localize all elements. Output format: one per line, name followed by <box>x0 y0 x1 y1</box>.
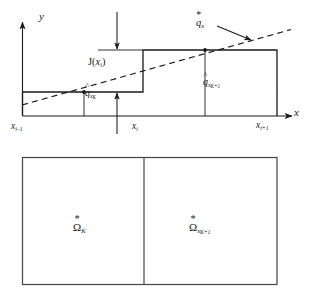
jump-paren-close: ) <box>102 56 106 67</box>
x-axis-label: x <box>294 107 299 118</box>
diagram-svg <box>0 0 315 293</box>
q-hat-left-caret: ^ <box>86 83 90 91</box>
q-hat-right-caret: ^ <box>204 72 208 80</box>
q-star-pointer-arrow <box>217 26 251 40</box>
q-hat-right-base-wrap: ^q <box>203 77 208 87</box>
bottom-panel-control-volumes <box>23 158 278 285</box>
omega-right-label: *ΩxK+1 <box>189 222 210 236</box>
q-hat-right-sub2: K+1 <box>211 83 221 89</box>
q-star-asterisk: * <box>196 10 201 20</box>
top-panel-graph <box>22 12 292 134</box>
q-hat-right-label: ^qxK+1 <box>203 77 220 89</box>
omega-left-asterisk: * <box>74 214 79 224</box>
exact-solution-dashed-line <box>22 30 291 106</box>
x-tick-label-i-plus-1: xi+1 <box>256 121 269 132</box>
x-tick-sub-3: i+1 <box>260 125 269 131</box>
q-hat-left-label: ^qxK <box>85 88 96 100</box>
marker-q-hat-x-K1 <box>203 48 207 52</box>
jump-label: J(xi) <box>88 57 106 69</box>
omega-right-base-wrap: *Ω <box>189 222 197 233</box>
q-hat-left-base-wrap: ^q <box>85 88 90 98</box>
figure-container: y x J(xi) *qx ^qxK ^qxK+1 xi–1 xi xi+1 *… <box>0 0 315 293</box>
q-hat-left-sub2: K <box>93 94 96 100</box>
y-axis-label: y <box>39 11 44 22</box>
omega-left-base-wrap: *Ω <box>73 222 81 233</box>
x-tick-label-i: xi <box>132 122 138 133</box>
q-star-label: *qx <box>196 18 204 30</box>
x-tick-label-i-minus-1: xi–1 <box>11 122 23 133</box>
step-function-reconstruction <box>23 50 278 116</box>
omega-left-label: *ΩK <box>73 222 86 235</box>
omega-right-sub2: K+1 <box>200 229 211 235</box>
q-star-sub: x <box>201 22 204 29</box>
x-tick-sub-2: i <box>136 126 138 132</box>
q-star-base-wrap: *q <box>196 18 201 29</box>
control-volume-outer-box <box>23 158 278 285</box>
omega-right-asterisk: * <box>190 214 195 224</box>
omega-left-sub: K <box>81 227 86 234</box>
x-tick-sub-1: i–1 <box>15 126 23 132</box>
